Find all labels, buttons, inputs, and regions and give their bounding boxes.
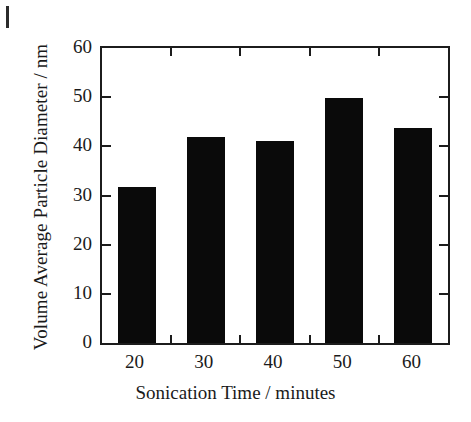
x-tick-label-60: 60 [381, 352, 441, 371]
plot-area [100, 46, 450, 345]
x-axis-tick-1 [239, 335, 241, 343]
bar-30 [187, 137, 225, 344]
y-axis-tick-right-10 [439, 293, 448, 295]
y-tick-label-20: 20 [46, 234, 92, 253]
y-tick-label-10: 10 [46, 283, 92, 302]
x-axis-tick-labels: 2030405060 [100, 352, 450, 378]
x-tick-label-30: 30 [174, 352, 234, 371]
bar-40 [256, 141, 294, 343]
y-axis-tick-30 [102, 195, 111, 197]
x-axis-tick-top-3 [378, 48, 380, 56]
x-tick-label-40: 40 [243, 352, 303, 371]
y-tick-label-60: 60 [46, 37, 92, 56]
y-axis-tick-labels: 0102030405060 [42, 0, 92, 422]
y-tick-label-50: 50 [46, 86, 92, 105]
x-axis-tick-3 [378, 335, 380, 343]
x-axis-tick-top-2 [309, 48, 311, 56]
y-axis-tick-right-30 [439, 195, 448, 197]
x-axis-tick-top-0 [170, 48, 172, 56]
y-axis-tick-40 [102, 145, 111, 147]
y-axis-tick-10 [102, 293, 111, 295]
y-axis-tick-20 [102, 244, 111, 246]
y-tick-label-30: 30 [46, 185, 92, 204]
plot-inner [102, 48, 448, 343]
y-axis-tick-right-20 [439, 244, 448, 246]
x-tick-label-20: 20 [105, 352, 165, 371]
y-axis-tick-right-50 [439, 96, 448, 98]
x-axis-tick-2 [309, 335, 311, 343]
bar-20 [118, 187, 156, 343]
x-axis-tick-0 [170, 335, 172, 343]
bar-50 [325, 98, 363, 343]
x-axis-title: Sonication Time / minutes [0, 382, 471, 404]
y-tick-label-40: 40 [46, 135, 92, 154]
x-tick-label-50: 50 [312, 352, 372, 371]
y-tick-label-0: 0 [46, 332, 92, 351]
bar-60 [394, 128, 432, 343]
y-axis-tick-50 [102, 96, 111, 98]
y-axis-tick-right-40 [439, 145, 448, 147]
scan-artifact-mark [6, 6, 9, 28]
x-axis-tick-top-1 [239, 48, 241, 56]
chart-figure: Volume Average Particle Diameter / nm 01… [0, 0, 471, 422]
